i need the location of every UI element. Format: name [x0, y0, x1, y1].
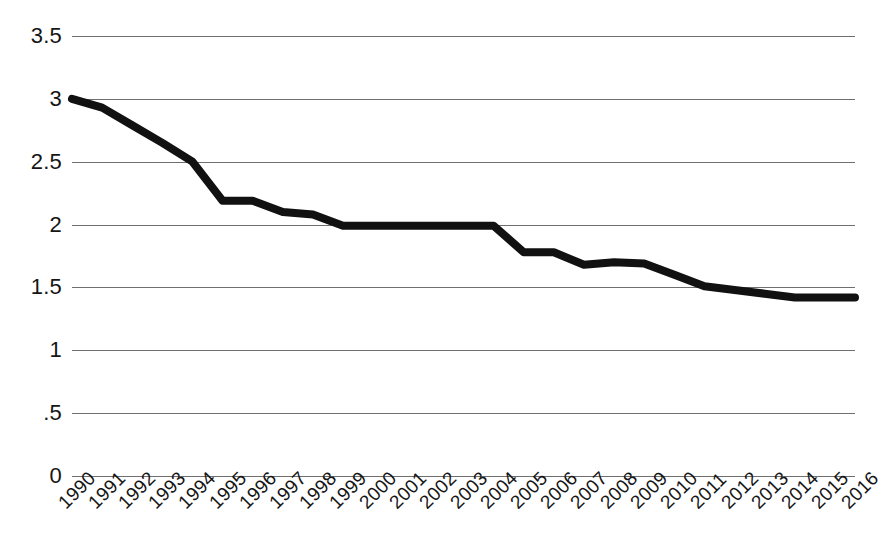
y-tick-label: 3 [50, 86, 62, 112]
series-line-1 [72, 99, 855, 298]
y-tick-label: 0 [50, 463, 62, 489]
plot-area [72, 0, 855, 557]
y-tick-label: 1.5 [31, 274, 62, 300]
y-tick-label: 2 [50, 212, 62, 238]
y-tick-label: 1 [50, 337, 62, 363]
y-tick-label: .5 [43, 400, 62, 426]
y-axis: 3.532.521.51.50 [0, 0, 62, 557]
y-tick-label: 3.5 [31, 23, 62, 49]
y-tick-label: 2.5 [31, 149, 62, 175]
series-line-layer [72, 0, 855, 557]
